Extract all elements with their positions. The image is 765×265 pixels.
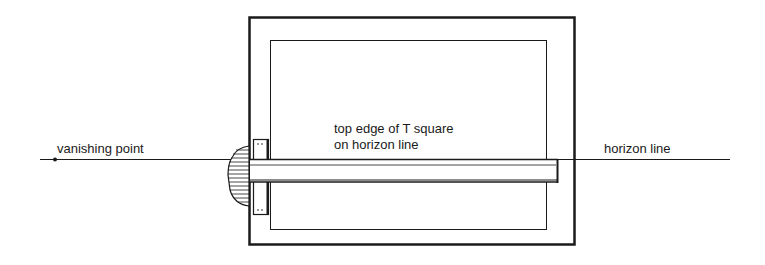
rivet-icon — [257, 209, 259, 211]
horizon-line-label: horizon line — [604, 141, 671, 156]
vanishing-point-dot — [53, 158, 57, 162]
t-square-head-hatch — [228, 146, 249, 206]
rivet-icon — [261, 209, 263, 211]
rivet-icon — [261, 143, 263, 145]
t-square-caption-line2: on horizon line — [334, 137, 419, 152]
t-square-caption-line1: top edge of T square — [334, 121, 454, 136]
t-square-blade-fill — [250, 160, 558, 182]
rivet-icon — [257, 143, 259, 145]
vanishing-point-label: vanishing point — [57, 141, 144, 156]
